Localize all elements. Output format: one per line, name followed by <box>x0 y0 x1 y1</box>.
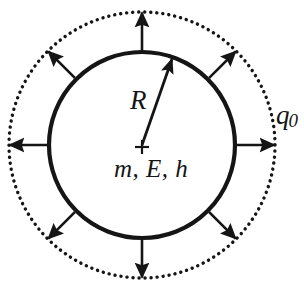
center-quantities-label: m, E, h <box>114 156 188 181</box>
flux-arrow-northeast <box>209 51 236 78</box>
charge-symbol: q <box>276 100 290 130</box>
flux-arrow-southeast <box>209 212 236 239</box>
radiating-sphere-diagram <box>0 0 304 288</box>
figure-canvas: R m, E, h q0 <box>0 0 304 288</box>
center-cross-marker <box>135 140 149 154</box>
radius-label: R <box>130 87 147 114</box>
flux-arrow-southwest <box>48 212 75 239</box>
flux-arrow-northwest <box>48 51 75 78</box>
charge-label: q0 <box>276 102 299 129</box>
charge-subscript: 0 <box>289 110 299 131</box>
